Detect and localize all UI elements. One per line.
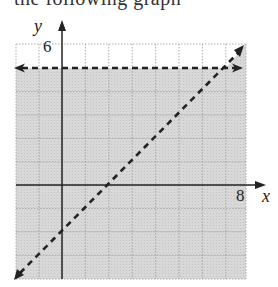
- x-tick-label-8: 8: [236, 186, 245, 206]
- y-axis-arrow-icon: [58, 20, 66, 31]
- x-axis-label: x: [262, 186, 270, 207]
- coordinate-plane: [0, 0, 278, 287]
- y-axis-label: y: [34, 16, 42, 37]
- y-tick-label-6: 6: [43, 37, 52, 57]
